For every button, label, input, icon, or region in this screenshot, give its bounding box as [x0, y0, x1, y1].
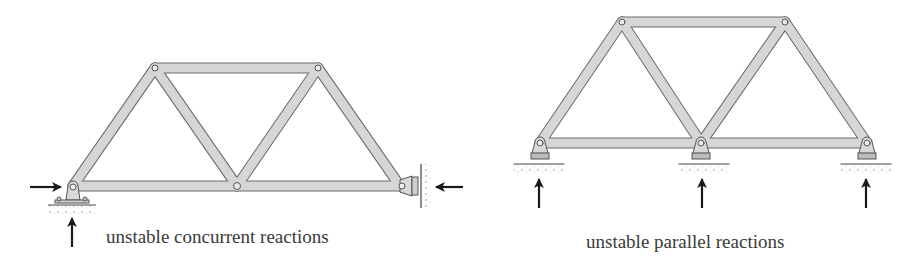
- pin-joint: [315, 65, 321, 71]
- caption-parallel: unstable parallel reactions: [586, 231, 784, 253]
- caption-concurrent: unstable concurrent reactions: [106, 226, 329, 248]
- left-truss: [48, 65, 430, 214]
- right-truss: [514, 19, 891, 173]
- pin-joint: [152, 65, 158, 71]
- right-reaction-arrows: [539, 179, 866, 208]
- pin-joint: [234, 183, 241, 190]
- right-wall-support: [399, 164, 430, 208]
